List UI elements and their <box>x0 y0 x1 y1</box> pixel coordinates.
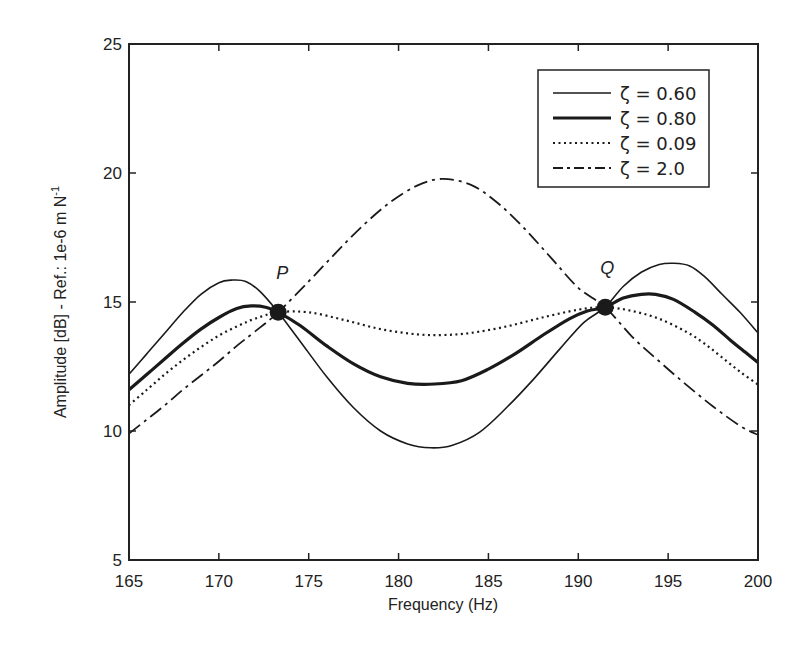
y-axis-label-exponent: -1 <box>49 186 61 196</box>
x-tick-label: 190 <box>564 572 592 591</box>
series-layer <box>129 179 758 448</box>
y-tick-label: 5 <box>113 551 122 570</box>
legend-label-0: ζ = 0.60 <box>620 83 696 104</box>
series-line-0 <box>129 263 758 448</box>
series-line-1 <box>129 294 758 390</box>
y-tick-label: 10 <box>103 422 122 441</box>
x-tick-label: 200 <box>744 572 772 591</box>
y-tick-label: 25 <box>103 35 122 54</box>
frf-chart: PQ 165170175180185190195200 510152025 Fr… <box>0 0 809 647</box>
legend-label-2: ζ = 0.09 <box>620 133 696 154</box>
point-label-p: P <box>276 263 288 283</box>
x-tick-label: 195 <box>654 572 682 591</box>
y-tick-label: 15 <box>103 293 122 312</box>
legend-label-3: ζ = 2.0 <box>620 158 685 179</box>
point-marker-q <box>597 299 614 316</box>
x-axis-label: Frequency (Hz) <box>388 596 498 613</box>
x-tick-label: 175 <box>295 572 323 591</box>
series-line-2 <box>129 307 758 405</box>
legend: ζ = 0.60ζ = 0.80ζ = 0.09ζ = 2.0 <box>538 70 709 187</box>
point-label-q: Q <box>600 258 614 278</box>
series-line-3 <box>129 179 758 435</box>
y-tick-label: 20 <box>103 164 122 183</box>
x-tick-label: 185 <box>474 572 502 591</box>
legend-label-1: ζ = 0.80 <box>620 108 696 129</box>
point-marker-p <box>270 304 287 321</box>
x-tick-label: 165 <box>115 572 143 591</box>
x-tick-label: 170 <box>205 572 233 591</box>
x-tick-label: 180 <box>384 572 412 591</box>
y-axis-label: Amplitude [dB] - Ref.: 1e-6 m N-1 <box>49 186 69 418</box>
